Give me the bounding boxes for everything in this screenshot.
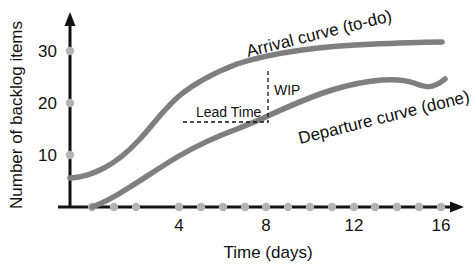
x-tick-label-12: 12 bbox=[345, 216, 364, 235]
x-tick-dot-4 bbox=[175, 203, 183, 211]
cumulative-flow-diagram: 30 20 10 4 8 12 16 bbox=[0, 0, 476, 267]
arrival-curve-label: Arrival curve (to-do) bbox=[244, 6, 393, 61]
x-axis-arrowhead bbox=[450, 202, 464, 213]
x-axis-title: Time (days) bbox=[223, 243, 312, 262]
x-tick-dot-11 bbox=[328, 203, 336, 211]
y-tick-label-20: 20 bbox=[38, 94, 57, 113]
y-axis-tick-labels: 30 20 10 bbox=[38, 42, 57, 165]
y-tick-dot-10 bbox=[66, 151, 74, 159]
x-tick-dot-5 bbox=[197, 203, 205, 211]
x-axis-tick-labels: 4 8 12 16 bbox=[174, 216, 450, 235]
y-axis-title: Number of backlog items bbox=[7, 21, 26, 209]
x-tick-dot-12 bbox=[350, 203, 358, 211]
x-tick-dot-16 bbox=[437, 203, 445, 211]
y-axis-arrowhead bbox=[65, 12, 76, 26]
x-tick-label-4: 4 bbox=[174, 216, 183, 235]
x-tick-dot-15 bbox=[415, 203, 423, 211]
departure-curve-label: Departure curve (done) bbox=[296, 87, 471, 148]
series-labels-group: Arrival curve (to-do) Departure curve (d… bbox=[244, 6, 471, 148]
y-tick-dot-20 bbox=[66, 99, 74, 107]
x-tick-dot-13 bbox=[371, 203, 379, 211]
departure-curve bbox=[92, 79, 445, 207]
wip-label: WIP bbox=[274, 82, 300, 98]
x-tick-dot-10 bbox=[306, 203, 314, 211]
y-tick-label-10: 10 bbox=[38, 146, 57, 165]
x-tick-dot-6 bbox=[219, 203, 227, 211]
x-tick-label-8: 8 bbox=[261, 216, 270, 235]
y-tick-dot-30 bbox=[66, 47, 74, 55]
x-tick-label-16: 16 bbox=[432, 216, 451, 235]
x-tick-dot-3 bbox=[132, 203, 140, 211]
x-tick-dot-14 bbox=[393, 203, 401, 211]
y-tick-label-30: 30 bbox=[38, 42, 57, 61]
lead-time-label: Lead Time bbox=[196, 104, 262, 120]
x-tick-dot-7 bbox=[241, 203, 249, 211]
x-tick-dot-8 bbox=[262, 203, 270, 211]
chart-canvas: 30 20 10 4 8 12 16 bbox=[0, 0, 476, 267]
x-tick-dot-9 bbox=[284, 203, 292, 211]
x-tick-dot-2 bbox=[110, 203, 118, 211]
